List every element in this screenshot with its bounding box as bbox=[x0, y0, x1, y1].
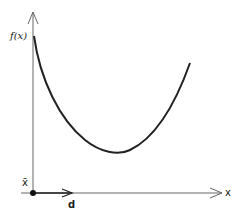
point-label: x̄ bbox=[22, 177, 28, 188]
function-curve bbox=[34, 36, 190, 153]
diagram-canvas bbox=[0, 0, 238, 219]
point-x-bar bbox=[30, 190, 36, 196]
y-axis-label: f(x) bbox=[10, 30, 27, 41]
y-axis bbox=[28, 12, 38, 192]
direction-vector bbox=[33, 189, 72, 197]
x-axis-label: x bbox=[225, 187, 231, 198]
direction-label: d bbox=[68, 199, 75, 210]
